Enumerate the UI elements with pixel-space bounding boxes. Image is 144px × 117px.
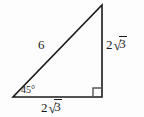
horizontal-leg-radicand: 3	[54, 99, 62, 113]
right-angle-marker-icon	[93, 88, 102, 97]
vertical-leg-label: 2√3	[106, 37, 127, 53]
vertical-leg-radical: √3	[113, 37, 127, 53]
horizontal-leg-label: 2√3	[41, 100, 62, 116]
right-triangle-figure: 6 2√3 2√3 45°	[0, 0, 144, 117]
triangle-drawing	[0, 0, 144, 117]
angle-label: 45°	[21, 85, 35, 95]
horizontal-leg-radical: √3	[48, 100, 62, 116]
hypotenuse-label: 6	[38, 38, 45, 51]
vertical-leg-radicand: 3	[119, 36, 127, 50]
